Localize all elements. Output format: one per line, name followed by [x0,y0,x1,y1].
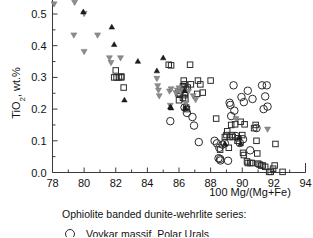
data-point-triangle-down [71,33,77,38]
data-point-triangle-down [106,56,112,61]
data-point-triangle-down [155,88,161,93]
y-axis-title-group: TiO2, wt.% [10,67,27,119]
legend-marker-circle [66,230,75,238]
data-point-triangle-down [117,56,123,61]
data-point-square [273,141,279,147]
series-black-triangle-up [81,9,244,146]
y-tick-label: 0.3 [31,71,46,83]
data-point-square [121,85,127,91]
y-tick-label: 0.1 [31,135,46,147]
data-point-square [187,62,193,68]
data-point-circle [230,82,238,90]
x-tick-label: 78 [46,177,58,189]
data-point-circle [224,157,232,165]
data-point-circle [244,87,252,95]
y-axis-ticks: 0.00.10.20.30.40.5 [31,0,57,179]
data-point-triangle-up [154,68,160,73]
data-point-circle [167,117,175,125]
data-point-square [255,151,261,157]
data-point-square [213,116,219,122]
x-tick-label: 94 [299,177,311,189]
legend: Ophiolite banded dunite-wehrlite series:… [62,208,246,237]
x-tick-label: 86 [173,177,185,189]
data-point-triangle-down [108,60,114,65]
data-point-triangle-down [156,94,162,99]
x-axis-title: 100 Mg/(Mg+Fe) [209,186,291,198]
data-point-square [113,68,119,74]
data-point-triangle-down [81,49,87,54]
data-point-square [200,90,206,96]
data-point-triangle-down [51,2,57,7]
data-point-square [254,138,260,144]
data-point-triangle-up [160,55,166,60]
data-point-circle [263,82,271,90]
data-point-triangle-down [95,33,101,38]
data-point-triangle-down [72,0,78,5]
data-point-triangle-up [222,141,228,146]
data-point-circle [261,93,269,101]
data-point-triangle-up [135,58,141,63]
data-point-triangle-up [111,42,117,47]
data-point-triangle-down [265,127,271,132]
series-open-square [111,62,285,175]
data-point-triangle-down [154,76,160,81]
data-point-triangle-down [193,98,199,103]
y-tick-label: 0.2 [31,103,46,115]
data-point-square [280,169,286,175]
data-point-circle [189,113,197,121]
data-point-circle [246,147,254,155]
x-tick-label: 82 [110,177,122,189]
y-tick-label: 0.4 [31,40,46,52]
chart-canvas: 788082848688909294 0.00.10.20.30.40.5 10… [0,0,313,237]
data-point-circle [190,122,198,130]
data-point-triangle-up [109,24,115,29]
legend-entry-label: Voykar massif, Polar Urals [86,228,209,238]
data-point-circle [195,138,203,146]
data-points-layer [51,0,285,174]
x-tick-label: 84 [141,177,153,189]
scatter-plot-figure: 788082848688909294 0.00.10.20.30.40.5 10… [0,0,313,237]
data-point-square [208,78,214,84]
y-tick-label: 0.0 [31,167,46,179]
data-point-triangle-up [122,97,128,102]
y-axis-title: TiO2, wt.% [10,67,27,119]
y-tick-label: 0.5 [31,8,46,20]
x-tick-label: 80 [78,177,90,189]
data-point-circle [249,95,257,103]
legend-title: Ophiolite banded dunite-wehrlite series: [62,208,246,220]
